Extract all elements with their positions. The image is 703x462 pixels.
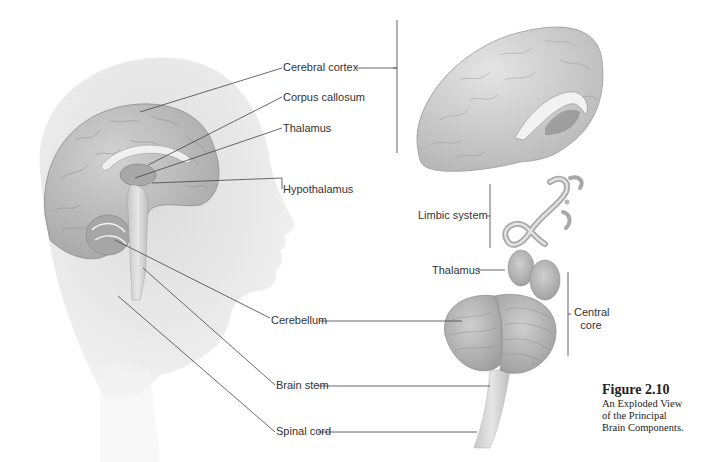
label-corpus-callosum: Corpus callosum [283, 91, 365, 104]
label-limbic-system: Limbic system [418, 209, 488, 222]
label-central-core-line2: core [574, 319, 608, 332]
label-spinal-cord: Spinal cord [276, 425, 331, 438]
caption-line-3: Brain Components. [602, 422, 702, 434]
label-thalamus-left: Thalamus [283, 122, 331, 135]
label-central-core-line1: Central [574, 306, 608, 319]
caption-line-1: An Exploded View [602, 398, 702, 410]
label-central-core: Central core [574, 306, 608, 332]
label-hypothalamus: Hypothalamus [283, 183, 353, 196]
cortex-hemisphere [417, 27, 603, 171]
figure-number: Figure 2.10 [602, 382, 702, 398]
label-brain-stem: Brain stem [276, 379, 329, 392]
label-thalamus-right: Thalamus [432, 264, 480, 277]
label-cerebral-cortex: Cerebral cortex [283, 61, 358, 74]
figure-caption-text: An Exploded View of the Principal Brain … [602, 398, 702, 434]
figure-caption: Figure 2.10 An Exploded View of the Prin… [602, 382, 702, 434]
central-core-structure [444, 250, 560, 448]
caption-line-2: of the Principal [602, 410, 702, 422]
brain-figure: Cerebral cortex Corpus callosum Thalamus… [0, 0, 703, 462]
limbic-system-structure [505, 177, 581, 245]
label-cerebellum: Cerebellum [271, 314, 327, 327]
